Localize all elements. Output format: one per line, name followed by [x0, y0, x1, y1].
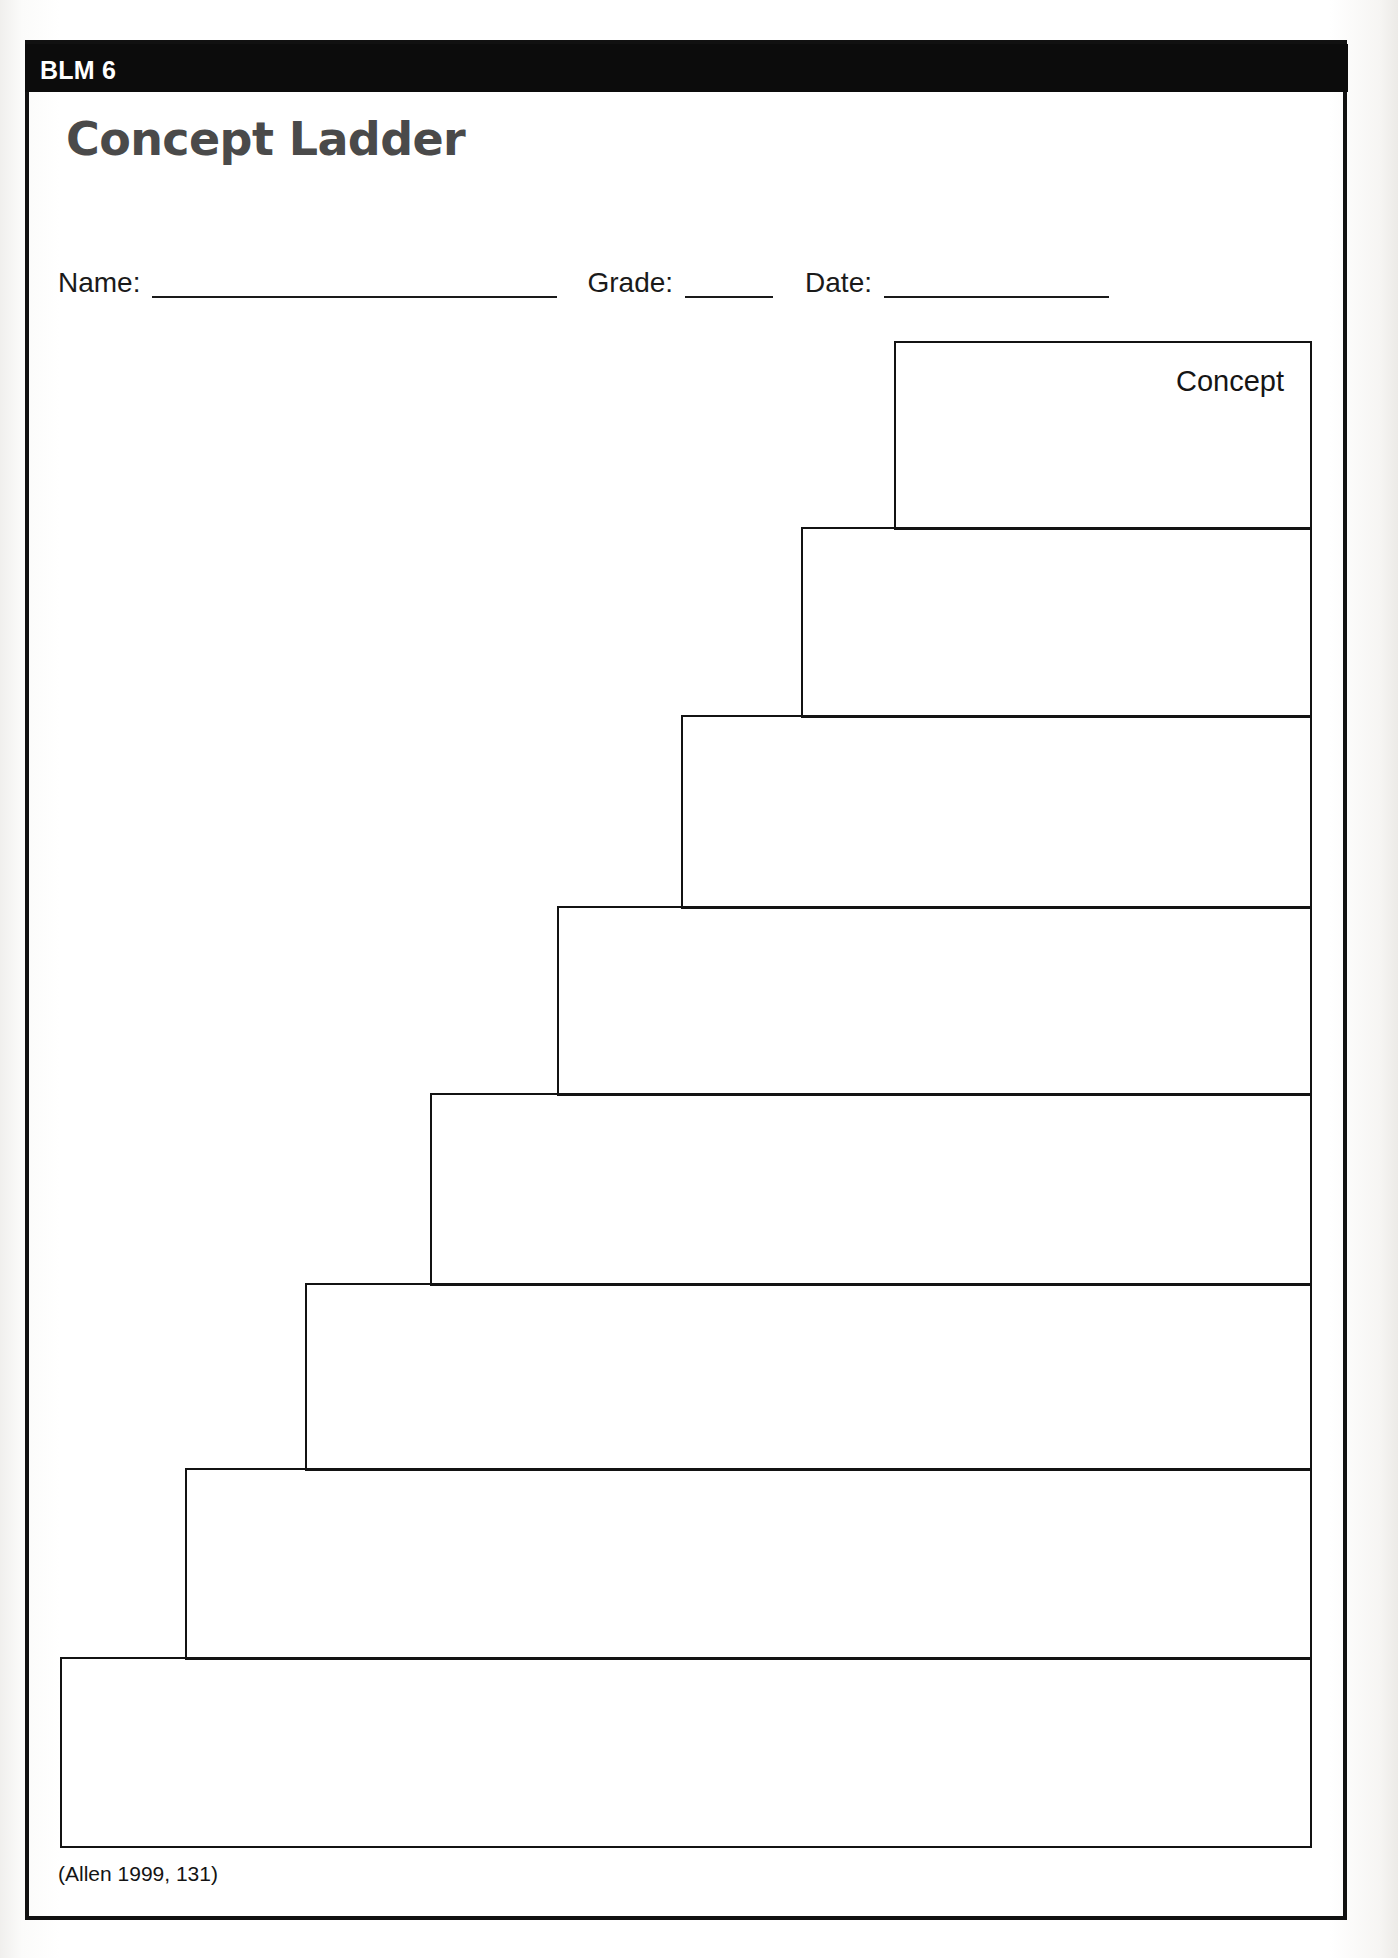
ladder-step-1-label: Concept [1176, 365, 1284, 398]
worksheet-page: BLM 6 Concept Ladder Name: Grade: Date: … [0, 0, 1398, 1958]
ladder-step-8[interactable] [60, 1657, 1312, 1848]
ladder-step-6[interactable] [305, 1283, 1312, 1471]
ladder-step-5[interactable] [430, 1093, 1312, 1286]
ladder-step-2[interactable] [801, 527, 1312, 718]
ladder-step-3[interactable] [681, 715, 1312, 909]
concept-ladder-diagram: Concept [0, 0, 1398, 1958]
ladder-step-4[interactable] [557, 906, 1312, 1096]
source-citation: (Allen 1999, 131) [58, 1862, 218, 1886]
ladder-step-1[interactable]: Concept [894, 341, 1312, 530]
ladder-step-7[interactable] [185, 1468, 1312, 1660]
